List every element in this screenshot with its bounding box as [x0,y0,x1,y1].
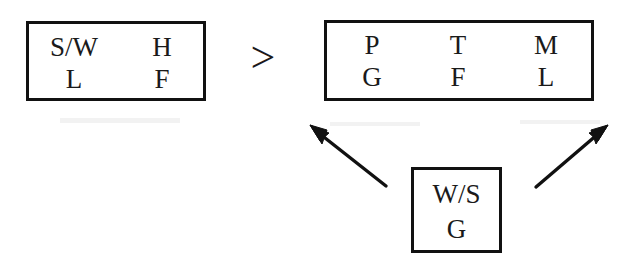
right-box-column-1: P G [329,23,415,98]
arrow-bottom-to-right-box-right [536,125,608,187]
scan-artifact [520,120,600,124]
bottom-box-cell-r0c0: W/S [414,179,499,210]
right-box-cell-r0c0: P [329,30,415,61]
right-box: P G T F M L [324,20,594,101]
left-box-cell-r0c0: S/W [29,32,119,63]
arrow-bottom-to-right-box-left [310,125,386,186]
left-box: S/W L H F [26,21,206,101]
diagram-canvas: S/W L H F > P G T F M L W/S G [0,0,631,264]
left-box-column-2: H F [117,24,207,98]
right-box-cell-r1c1: F [415,62,501,93]
scan-artifact [330,122,420,126]
right-box-column-2: T F [415,23,501,98]
greater-than-symbol: > [242,28,284,88]
left-box-cell-r1c0: L [29,64,119,95]
right-box-cell-r0c2: M [503,30,589,61]
right-box-cell-r1c2: L [503,62,589,93]
right-box-cell-r1c0: G [329,62,415,93]
right-box-column-3: M L [503,23,589,98]
left-box-cell-r0c1: H [117,32,207,63]
scan-artifact [60,118,180,123]
bottom-box-cell-r1c0: G [414,214,499,245]
left-box-column-1: S/W L [29,24,119,98]
right-box-cell-r0c1: T [415,30,501,61]
left-box-cell-r1c1: F [117,64,207,95]
bottom-box: W/S G [411,167,502,253]
